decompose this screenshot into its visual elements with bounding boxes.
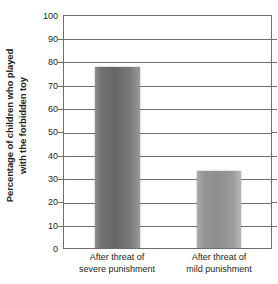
y-axis-title-line-2: with the forbidden toy [17, 48, 30, 202]
y-axis-title-line-1: Percentage of children who played [5, 48, 18, 202]
x-label-mild-line-1: After threat of [166, 252, 272, 264]
y-axis-tick-labels: 100 90 80 70 60 50 40 30 20 10 0 [30, 0, 58, 284]
y-tick-label-100: 100 [30, 12, 58, 21]
y-tick-mark-right-50 [272, 132, 277, 133]
x-label-mild-line-2: mild punishment [166, 264, 272, 276]
y-tick-label-40: 40 [30, 152, 58, 161]
x-label-severe-line-1: After threat of [63, 252, 171, 264]
y-tick-label-20: 20 [30, 198, 58, 207]
gridline-90 [64, 39, 271, 40]
bar-chart: Percentage of children who played with t… [0, 0, 278, 284]
y-tick-label-10: 10 [30, 222, 58, 231]
y-tick-mark-right-60 [272, 109, 277, 110]
y-axis-title: Percentage of children who played with t… [0, 0, 34, 250]
x-label-severe-punishment: After threat of severe punishment [63, 252, 171, 275]
bar-severe-punishment [95, 67, 140, 248]
y-tick-label-50: 50 [30, 128, 58, 137]
plot-area [63, 15, 272, 249]
y-tick-mark-right-90 [272, 39, 277, 40]
y-tick-label-0: 0 [30, 245, 58, 254]
y-tick-mark-right-20 [272, 202, 277, 203]
y-tick-label-70: 70 [30, 82, 58, 91]
y-tick-label-80: 80 [30, 58, 58, 67]
gridline-80 [64, 62, 271, 63]
y-tick-mark-right-10 [272, 226, 277, 227]
x-axis-category-labels: After threat of severe punishment After … [63, 252, 272, 284]
x-label-mild-punishment: After threat of mild punishment [166, 252, 272, 275]
x-label-severe-line-2: severe punishment [63, 264, 171, 276]
y-tick-mark-right-40 [272, 156, 277, 157]
y-tick-mark-right-80 [272, 62, 277, 63]
y-tick-mark-right-30 [272, 179, 277, 180]
y-tick-mark-right-70 [272, 86, 277, 87]
bar-mild-punishment [197, 171, 241, 248]
y-tick-label-30: 30 [30, 175, 58, 184]
y-tick-label-60: 60 [30, 105, 58, 114]
y-tick-label-90: 90 [30, 35, 58, 44]
